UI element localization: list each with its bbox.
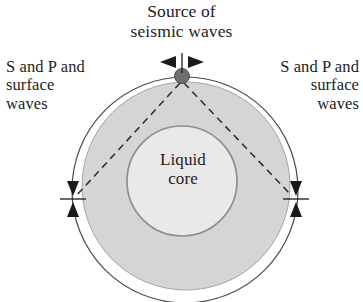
right-waves-label: S and P and surface waves xyxy=(227,58,359,113)
left-waves-label: S and P and surface waves xyxy=(6,58,136,113)
source-of-seismic-waves-label: Source of seismic waves xyxy=(0,2,363,41)
source-marker xyxy=(160,53,204,73)
seismic-wave-shadow-zone-figure: Source of seismic waves S and P and surf… xyxy=(0,0,363,302)
liquid-core-label: Liquid core xyxy=(128,150,238,188)
